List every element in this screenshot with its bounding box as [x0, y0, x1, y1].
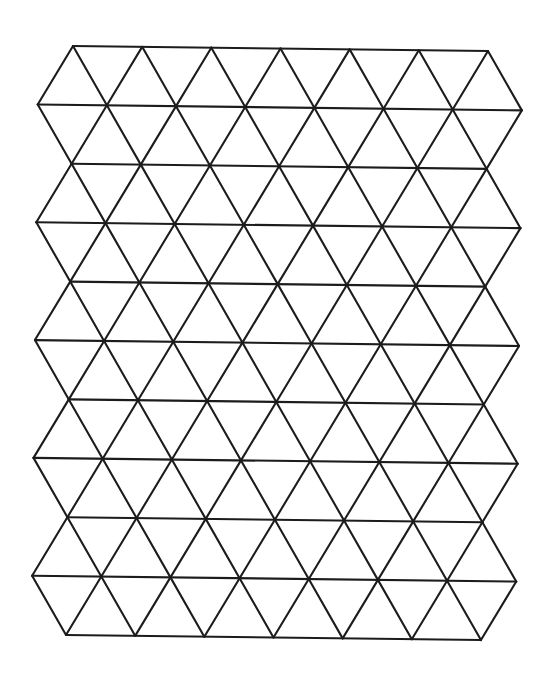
diagonal-line: [309, 521, 344, 579]
diagonal-line: [381, 286, 416, 344]
diagonal-line: [485, 228, 520, 286]
diagonal-line: [241, 460, 275, 519]
diagonal-line: [244, 225, 278, 284]
diagonal-line: [412, 581, 447, 639]
diagonal-line: [242, 284, 277, 342]
diagonal-line: [413, 463, 448, 521]
diagonal-line: [448, 463, 482, 522]
diagonal-line: [38, 104, 72, 163]
diagonal-line: [379, 462, 413, 521]
diagonal-line: [310, 461, 344, 520]
diagonal-line: [310, 403, 345, 461]
diagonal-line: [139, 282, 173, 341]
diagonal-line: [447, 522, 482, 580]
diagonal-line: [210, 107, 245, 165]
diagonal-line: [138, 342, 173, 400]
diagonal-line: [481, 582, 516, 640]
diagonal-line: [273, 579, 308, 637]
diagonal-line: [275, 520, 309, 579]
diagonal-line: [240, 578, 274, 637]
diagonal-line: [413, 521, 447, 580]
diagonal-line: [417, 168, 451, 227]
diagonal-line: [314, 49, 349, 107]
diagonal-line: [276, 402, 310, 461]
diagonal-line: [379, 404, 414, 462]
diagonal-line: [278, 226, 313, 284]
diagonal-line: [345, 344, 380, 402]
diagonal-line: [32, 517, 67, 575]
diagonal-line: [275, 461, 310, 519]
diagonal-line: [176, 106, 210, 165]
diagonal-line: [240, 520, 275, 578]
diagonal-line: [107, 105, 141, 164]
diagonal-line: [345, 403, 379, 462]
diagonal-line: [105, 223, 139, 282]
diagonal-line: [312, 343, 346, 402]
diagonal-line: [451, 169, 486, 227]
diagonal-line: [279, 166, 313, 225]
diagonal-line: [138, 400, 172, 459]
diagonal-line: [276, 343, 311, 401]
diagonal-line: [69, 341, 104, 399]
diagonal-line: [312, 285, 347, 343]
diagonal-line: [66, 577, 101, 635]
diagonal-line: [69, 399, 103, 458]
diagonal-line: [175, 165, 210, 223]
diagonal-line: [170, 519, 205, 577]
diagonal-line: [36, 222, 70, 281]
diagonal-line: [209, 225, 244, 283]
diagonal-line: [35, 340, 69, 399]
diagonal-line: [139, 224, 174, 282]
diagonal-line: [381, 344, 415, 403]
diagonal-line: [170, 577, 204, 636]
diagonal-line: [484, 346, 519, 404]
diagonal-line: [176, 48, 211, 106]
diagonal-line: [72, 105, 107, 163]
diagonal-line: [141, 106, 176, 164]
diagonal-line: [314, 108, 348, 167]
diagonal-line: [485, 287, 519, 346]
diagonal-line: [70, 223, 105, 281]
diagonal-line: [105, 165, 140, 223]
diagonal-line: [73, 46, 107, 105]
diagonal-line: [101, 577, 135, 636]
diagonal-line: [419, 50, 453, 109]
diagonal-line: [137, 460, 172, 518]
diagonal-line: [347, 226, 382, 284]
diagonal-line: [70, 282, 104, 341]
diagonal-line: [207, 401, 241, 460]
diagonal-line: [211, 48, 245, 107]
diagonal-line: [447, 581, 481, 640]
diagonal-line: [344, 521, 378, 580]
diagonal-line: [242, 343, 276, 402]
diagonal-line: [101, 518, 136, 576]
diagonal-line: [348, 109, 383, 167]
diagonal-line: [448, 404, 483, 462]
diagonal-line: [384, 109, 418, 168]
triangle-grid-canvas: [0, 0, 547, 675]
diagonal-line: [417, 110, 452, 168]
diagonal-line: [38, 46, 73, 104]
diagonal-line: [487, 169, 521, 228]
diagonal-line: [175, 224, 209, 283]
diagonal-line: [36, 164, 71, 222]
diagonal-line: [244, 166, 279, 224]
diagonal-line: [313, 167, 348, 225]
diagonal-line: [245, 49, 280, 107]
diagonal-line: [204, 578, 239, 636]
diagonal-line: [34, 399, 69, 457]
diagonal-line: [141, 165, 175, 224]
diagonal-line: [347, 285, 381, 344]
diagonal-line: [453, 110, 487, 169]
diagonal-line: [207, 343, 242, 401]
diagonal-line: [350, 49, 384, 108]
diagonal-line: [416, 286, 450, 345]
diagonal-line: [384, 50, 419, 108]
diagonal-line: [245, 107, 279, 166]
diagonal-line: [103, 400, 138, 458]
diagonal-line: [415, 404, 449, 463]
diagonal-line: [32, 576, 66, 635]
diagonal-line: [103, 459, 137, 518]
diagonal-line: [450, 345, 484, 404]
diagonal-line: [137, 518, 171, 577]
